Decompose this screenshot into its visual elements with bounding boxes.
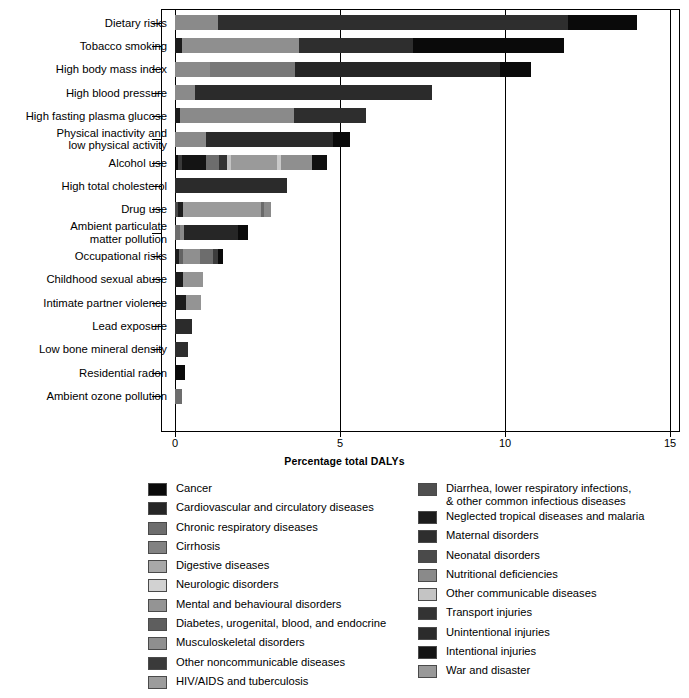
y-tick-mark-0: [152, 23, 161, 24]
legend-item[interactable]: War and disaster: [418, 664, 686, 681]
legend-swatch-icon: [418, 646, 437, 659]
y-tick-mark-7: [152, 186, 161, 187]
legend-label: Nutritional deficiencies: [446, 568, 558, 581]
bar-segment: [182, 155, 206, 170]
bar-segment: [175, 15, 218, 30]
gridline-15: [670, 9, 671, 432]
bar-segment: [175, 389, 182, 404]
y-tick-mark-14: [152, 349, 161, 350]
legend-label: Transport injuries: [446, 606, 532, 619]
legend-item[interactable]: Neglected tropical diseases and malaria: [418, 510, 686, 527]
bar-row: [175, 202, 271, 217]
bar-row: [175, 155, 327, 170]
legend-label: Digestive diseases: [176, 559, 269, 572]
y-axis-label-14: Low bone mineral density: [39, 343, 167, 356]
legend-item[interactable]: Chronic respiratory diseases: [148, 521, 408, 538]
y-tick-mark-11: [152, 279, 161, 280]
legend-swatch-icon: [148, 618, 167, 631]
legend-column-right: Diarrhea, lower respiratory infections, …: [418, 482, 686, 684]
bar-segment: [413, 38, 564, 53]
legend-item[interactable]: Musculoskeletal disorders: [148, 636, 408, 653]
legend-label: Cardiovascular and circulatory diseases: [176, 501, 374, 514]
y-axis-label-12: Intimate partner violence: [43, 297, 167, 310]
bar-segment: [175, 85, 195, 100]
legend-swatch-icon: [148, 599, 167, 612]
bar-segment: [186, 295, 202, 310]
legend-item[interactable]: Diarrhea, lower respiratory infections, …: [418, 482, 686, 508]
bar-row: [175, 272, 203, 287]
legend-swatch-icon: [418, 550, 437, 563]
legend-item[interactable]: Cancer: [148, 482, 408, 499]
bar-row: [175, 342, 188, 357]
legend-label: Diarrhea, lower respiratory infections, …: [446, 482, 631, 508]
legend-label: War and disaster: [446, 664, 530, 677]
y-tick-mark-6: [152, 163, 161, 164]
legend-label: Other noncommunicable diseases: [176, 656, 345, 669]
legend-swatch-icon: [148, 676, 167, 689]
bar-segment: [175, 365, 185, 380]
legend-label: HIV/AIDS and tuberculosis: [176, 675, 308, 688]
y-axis-label-5: Physical inactivity and low physical act…: [56, 127, 167, 152]
y-tick-mark-1: [152, 46, 161, 47]
legend-swatch-icon: [418, 588, 437, 601]
legend-item[interactable]: Cardiovascular and circulatory diseases: [148, 501, 408, 518]
legend-swatch-icon: [148, 522, 167, 535]
legend-item[interactable]: Diabetes, urogenital, blood, and endocri…: [148, 617, 408, 634]
bar-segment: [180, 108, 294, 123]
legend-label: Mental and behavioural disorders: [176, 598, 341, 611]
legend-swatch-icon: [148, 637, 167, 650]
y-tick-mark-2: [152, 69, 161, 70]
legend-swatch-icon: [418, 483, 437, 496]
legend-item[interactable]: Other communicable diseases: [418, 587, 686, 604]
legend-swatch-icon: [148, 483, 167, 496]
legend-swatch-icon: [418, 627, 437, 640]
legend-label: Neurologic disorders: [176, 578, 279, 591]
bar-row: [175, 225, 248, 240]
bar-segment: [175, 62, 210, 77]
bar-row: [175, 295, 201, 310]
legend-item[interactable]: Other noncommunicable diseases: [148, 656, 408, 673]
y-tick-mark-12: [152, 303, 161, 304]
y-tick-mark-16: [152, 396, 161, 397]
bar-row: [175, 62, 531, 77]
legend-item[interactable]: Nutritional deficiencies: [418, 568, 686, 585]
bar-segment: [175, 178, 287, 193]
bar-row: [175, 85, 432, 100]
y-tick-mark-3: [152, 93, 161, 94]
legend-label: Maternal disorders: [446, 529, 539, 542]
legend-swatch-icon: [148, 560, 167, 573]
bar-row: [175, 249, 223, 264]
legend-item[interactable]: Mental and behavioural disorders: [148, 598, 408, 615]
bar-segment: [175, 342, 188, 357]
bar-segment: [218, 15, 568, 30]
y-tick-mark-5: [152, 139, 161, 140]
legend-item[interactable]: Unintentional injuries: [418, 626, 686, 643]
bar-segment: [175, 272, 183, 287]
bar-segment: [231, 155, 277, 170]
bar-row: [175, 38, 564, 53]
legend-swatch-icon: [418, 607, 437, 620]
chart-area: Dietary risksTobacco smokingHigh body ma…: [0, 0, 689, 470]
y-tick-mark-10: [152, 256, 161, 257]
chart-legend: CancerCardiovascular and circulatory dis…: [0, 482, 689, 698]
legend-label: Neonatal disorders: [446, 549, 540, 562]
bar-segment: [294, 108, 367, 123]
bar-segment: [183, 202, 262, 217]
legend-item[interactable]: Cirrhosis: [148, 540, 408, 557]
bar-segment: [312, 155, 327, 170]
chart-page: Dietary risksTobacco smokingHigh body ma…: [0, 0, 689, 698]
x-tick-label-10: 10: [490, 437, 520, 449]
legend-item[interactable]: Transport injuries: [418, 606, 686, 623]
bar-segment: [206, 132, 333, 147]
y-tick-mark-9: [152, 233, 161, 234]
x-tick-label-15: 15: [655, 437, 685, 449]
legend-item[interactable]: Digestive diseases: [148, 559, 408, 576]
legend-item[interactable]: Intentional injuries: [418, 645, 686, 662]
legend-item[interactable]: Maternal disorders: [418, 529, 686, 546]
y-tick-mark-15: [152, 373, 161, 374]
bar-row: [175, 319, 192, 334]
legend-item[interactable]: Neurologic disorders: [148, 578, 408, 595]
legend-item[interactable]: HIV/AIDS and tuberculosis: [148, 675, 408, 692]
bar-segment: [195, 85, 433, 100]
legend-item[interactable]: Neonatal disorders: [418, 549, 686, 566]
